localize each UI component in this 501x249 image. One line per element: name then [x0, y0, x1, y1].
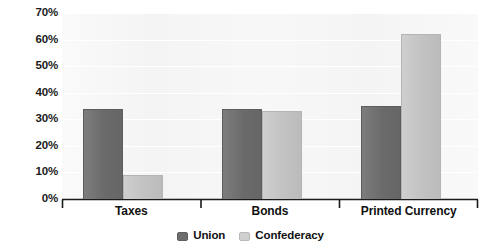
legend-swatch-confederacy-icon — [239, 232, 250, 241]
bar-shading — [84, 110, 122, 199]
x-axis-label-taxes: Taxes — [62, 203, 201, 219]
y-axis-tick-label: 60% — [0, 34, 58, 46]
bar-bonds-union — [222, 109, 262, 199]
x-axis-category-labels: TaxesBondsPrinted Currency — [62, 203, 478, 223]
y-axis-tick-label: 0% — [0, 193, 58, 205]
y-axis-tick-label: 10% — [0, 167, 58, 179]
legend-item-confederacy[interactable]: Confederacy — [239, 230, 324, 242]
legend-item-union[interactable]: Union — [177, 230, 225, 242]
bar-printed-currency-union — [361, 106, 401, 199]
bar-taxes-union — [83, 109, 123, 199]
y-axis-tick-label: 30% — [0, 114, 58, 126]
bar-shading — [402, 35, 440, 199]
bar-shading — [124, 176, 162, 199]
bar-chart: 70%60%50%40%30%20%10%0% TaxesBondsPrinte… — [0, 0, 501, 249]
y-axis-tick-label: 20% — [0, 140, 58, 152]
plot-area — [62, 13, 478, 199]
x-axis-label-printed-currency: Printed Currency — [339, 203, 478, 219]
y-axis-tick-label: 40% — [0, 87, 58, 99]
legend-label: Union — [193, 230, 225, 242]
bar-bonds-confederacy — [262, 111, 302, 199]
legend: UnionConfederacy — [0, 226, 501, 246]
legend-label: Confederacy — [255, 230, 324, 242]
legend-swatch-union-icon — [177, 232, 188, 241]
y-axis-tick-label: 50% — [0, 60, 58, 72]
bar-shading — [362, 107, 400, 199]
bars-layer — [62, 13, 478, 199]
y-axis-tick-label: 70% — [0, 7, 58, 19]
bar-shading — [223, 110, 261, 199]
y-axis: 70%60%50%40%30%20%10%0% — [0, 0, 58, 210]
bar-taxes-confederacy — [123, 175, 163, 199]
bar-printed-currency-confederacy — [401, 34, 441, 199]
x-axis-label-bonds: Bonds — [201, 203, 340, 219]
bar-shading — [263, 112, 301, 199]
